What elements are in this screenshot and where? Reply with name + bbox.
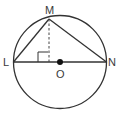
- label-o: O: [56, 68, 65, 80]
- right-angle-marker: [38, 52, 48, 62]
- label-l: L: [3, 56, 9, 68]
- geometry-diagram: M L N O: [0, 0, 131, 118]
- label-m: M: [45, 4, 54, 16]
- label-n: N: [108, 56, 116, 68]
- chord-mn: [49, 19, 107, 62]
- center-point-o: [57, 59, 63, 65]
